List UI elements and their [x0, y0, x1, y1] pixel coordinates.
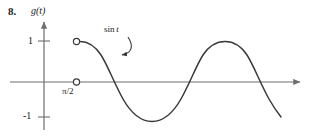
- graph-canvas: [0, 0, 314, 139]
- y-tick-label-one: 1: [28, 36, 33, 46]
- x-axis-point-label-pi-over-2: π/2: [62, 87, 74, 96]
- open-point-curve-start: [73, 38, 79, 44]
- curve-label-variable: t: [116, 24, 119, 34]
- sin-t-callout-arrow: [122, 37, 131, 55]
- curve-label-function-name: sin: [104, 24, 116, 34]
- math-figure-sine-graph: 8. g(t) 1 -1 π/2 sin t: [0, 0, 314, 139]
- open-point-x-axis-pi-over-2: [73, 79, 79, 85]
- curve-label-sin-t: sin t: [104, 25, 119, 34]
- y-tick-label-negative-one: -1: [23, 111, 31, 121]
- y-axis-label: g(t): [31, 6, 45, 16]
- problem-number: 8.: [8, 6, 16, 17]
